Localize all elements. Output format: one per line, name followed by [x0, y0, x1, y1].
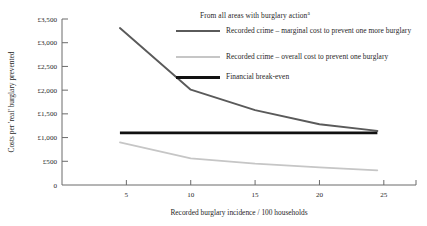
y-tick-label: £500 [43, 158, 58, 166]
legend-label-overall-cost: Recorded crime – overall cost to prevent… [226, 52, 388, 61]
legend-swatch-marginal-line [176, 30, 220, 32]
y-axis-title: Costs per 'real' burglary prevented [7, 51, 16, 152]
y-tick-label: £2,500 [37, 63, 57, 71]
y-tick-label: £1,000 [37, 134, 57, 142]
y-tick-label: £2,000 [37, 87, 57, 95]
legend-title-text: From all areas with burglary action [200, 11, 307, 20]
y-axis-ticks [62, 19, 68, 161]
x-axis-tick-labels: 510152025 [125, 191, 388, 199]
legend-title-superscript: a [307, 10, 309, 16]
legend-item-financial-break-even[interactable]: Financial break-even [176, 72, 424, 81]
y-tick-label: 0 [53, 182, 57, 190]
x-tick-label: 10 [187, 191, 195, 199]
x-axis-title: Recorded burglary incidence / 100 househ… [170, 208, 307, 217]
legend-title: From all areas with burglary actiona [200, 10, 310, 20]
legend-swatch-breakeven-line [176, 76, 220, 79]
x-axis-ticks [126, 180, 416, 185]
y-tick-label: £1,500 [37, 110, 57, 118]
series-line-overall-cost [120, 142, 377, 170]
legend-label-financial-break-even: Financial break-even [226, 72, 289, 81]
chart-figure: 0£500£1,000£1,500£2,000£2,500£3,000£3,50… [0, 0, 427, 226]
axis-group [62, 19, 416, 185]
x-tick-label: 5 [125, 191, 129, 199]
y-tick-label: £3,000 [37, 39, 57, 47]
legend-swatch-overall-line [176, 56, 220, 58]
y-tick-label: £3,500 [37, 16, 57, 24]
legend-item-overall-cost[interactable]: Recorded crime – overall cost to prevent… [176, 52, 424, 61]
x-tick-label: 20 [316, 191, 324, 199]
y-axis-tick-labels: 0£500£1,000£1,500£2,000£2,500£3,000£3,50… [37, 16, 57, 190]
data-series-group [120, 28, 377, 170]
legend-item-marginal-cost[interactable]: Recorded crime – marginal cost to preven… [176, 26, 424, 35]
legend-label-marginal-cost: Recorded crime – marginal cost to preven… [226, 26, 422, 35]
x-tick-label: 25 [380, 191, 388, 199]
x-tick-label: 15 [252, 191, 260, 199]
